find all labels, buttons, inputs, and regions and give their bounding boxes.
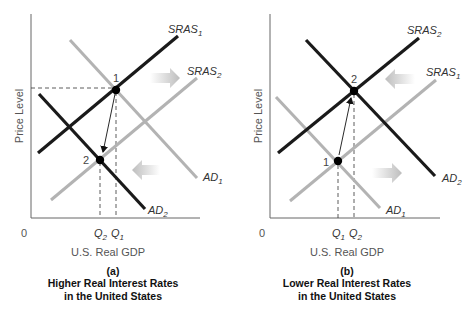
shift-arrow-left-icon [385, 69, 415, 89]
panel-b-title-line2: in the United States [252, 290, 442, 303]
point-label-2: 2 [83, 154, 89, 166]
panel-a-title-line1: Higher Real Interest Rates [18, 277, 208, 290]
sras2-curve [51, 78, 197, 200]
point-label-2: 2 [351, 73, 357, 85]
equilibrium-point-1 [112, 86, 120, 94]
q1-label: Q1 [111, 227, 124, 242]
panel-b-caption: (b) Lower Real Interest Rates in the Uni… [252, 265, 442, 303]
x-axis-label: U.S. Real GDP [71, 246, 145, 258]
panel-b-title-line1: Lower Real Interest Rates [252, 277, 442, 290]
shift-arrow-right-icon [150, 68, 180, 88]
shift-arrow-left-icon [132, 160, 160, 180]
panel-b: 2 1 SRAS2 SRAS1 AD2 AD1 Price Level 0 Q1… [252, 14, 462, 258]
x-axis-label: U.S. Real GDP [310, 246, 384, 258]
equilibrium-point-2 [96, 156, 104, 164]
panel-a-title-line2: in the United States [18, 290, 208, 303]
q2-label: Q2 [94, 227, 108, 242]
equilibrium-point-2 [350, 87, 358, 95]
label-sras2: SRAS2 [407, 24, 442, 39]
panel-a-caption: (a) Higher Real Interest Rates in the Un… [18, 265, 208, 303]
label-ad2: AD2 [441, 172, 462, 187]
ad2-curve [39, 94, 145, 209]
label-sras1: SRAS1 [168, 23, 202, 38]
shift-arrow-right-icon [372, 163, 402, 183]
label-ad2: AD2 [147, 204, 168, 219]
y-axis-label: Price Level [13, 89, 25, 143]
label-sras1: SRAS1 [426, 66, 460, 81]
panel-a: 1 2 SRAS1 SRAS2 AD1 AD2 Price Level 0 Q2… [13, 14, 223, 258]
point-label-1: 1 [113, 72, 119, 84]
q2-label: Q2 [349, 227, 363, 242]
origin-label: 0 [21, 227, 27, 239]
y-axis-label: Price Level [252, 89, 264, 143]
panel-a-letter: (a) [18, 265, 208, 277]
label-ad1: AD1 [385, 204, 406, 219]
label-ad1: AD1 [202, 171, 223, 186]
point-label-1: 1 [323, 156, 329, 168]
equilibrium-move-arrow [339, 98, 351, 155]
panel-b-letter: (b) [252, 265, 442, 277]
origin-label: 0 [259, 227, 265, 239]
equilibrium-point-1 [334, 157, 342, 165]
equilibrium-move-arrow [103, 94, 115, 152]
label-sras2: SRAS2 [187, 65, 222, 80]
q1-label: Q1 [332, 227, 345, 242]
